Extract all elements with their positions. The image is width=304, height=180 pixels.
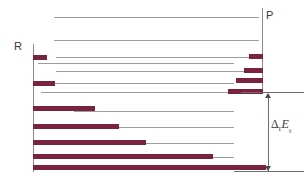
reactant-level-bar (33, 154, 213, 159)
upper-reference-rule (241, 92, 304, 93)
connector-line (38, 63, 234, 64)
connector-line (56, 57, 252, 58)
reactant-axis-label: R (14, 41, 22, 52)
energy-level-diagram: R P ΔrE₀ (0, 0, 304, 180)
reactant-level-bar (33, 165, 266, 170)
reactant-level-bar (33, 81, 55, 86)
reactant-level-bar (33, 124, 119, 129)
delta-energy-arrow-shaft (268, 94, 269, 171)
product-level-bar (249, 54, 263, 59)
reactant-level-bar (33, 106, 95, 111)
product-level-bar (236, 78, 263, 83)
delta-standard-subscript: ₀ (289, 124, 292, 133)
lower-reference-rule (234, 171, 304, 172)
connector-line (47, 83, 234, 84)
connector-line (41, 92, 232, 93)
connector-line (54, 17, 259, 18)
reaction-energy-label: ΔrE₀ (271, 118, 292, 133)
delta-energy-arrow-head-up (265, 93, 271, 98)
connector-line (54, 40, 259, 41)
energy-symbol: E (281, 117, 288, 131)
reactant-level-bar (33, 55, 47, 60)
reactant-level-bar (33, 140, 146, 145)
product-level-bar (244, 68, 263, 73)
connector-line (74, 111, 234, 112)
product-axis-label: P (266, 10, 273, 21)
connector-line (56, 71, 246, 72)
delta-symbol: Δ (271, 117, 279, 131)
delta-energy-arrow-head-down (265, 166, 271, 171)
